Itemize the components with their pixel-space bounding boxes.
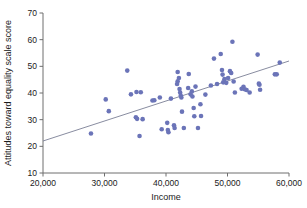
- data-point: [169, 96, 174, 101]
- data-point: [186, 86, 191, 91]
- data-point: [242, 87, 247, 92]
- data-point: [135, 117, 140, 122]
- data-point: [89, 131, 94, 136]
- data-point: [134, 90, 139, 95]
- data-point: [277, 60, 282, 65]
- x-tick-label: 40,000: [153, 178, 179, 188]
- data-point: [165, 121, 170, 126]
- data-point: [209, 83, 214, 88]
- x-tick-label: 30,000: [92, 178, 118, 188]
- data-point: [182, 126, 187, 131]
- x-axis: 20,00030,00040,00050,00060,000: [30, 173, 302, 188]
- data-point: [129, 92, 134, 97]
- data-point: [172, 126, 177, 131]
- data-point: [220, 72, 225, 77]
- data-point: [158, 95, 163, 100]
- data-point: [196, 126, 201, 131]
- data-point: [125, 68, 130, 73]
- y-axis-title: Attitudes toward equality scale score: [3, 20, 13, 166]
- data-point: [152, 98, 157, 103]
- data-point: [166, 130, 171, 135]
- y-tick-label: 50: [28, 61, 38, 71]
- data-point: [199, 114, 204, 119]
- data-point: [137, 134, 142, 139]
- y-tick-label: 10: [28, 168, 38, 178]
- data-point: [198, 102, 203, 107]
- data-point: [180, 109, 185, 114]
- y-tick-label: 70: [28, 8, 38, 18]
- data-point: [274, 72, 279, 77]
- data-point: [175, 82, 180, 87]
- data-point: [218, 52, 223, 57]
- data-point: [212, 56, 217, 61]
- data-point: [138, 90, 143, 95]
- x-axis-title: Income: [151, 192, 181, 202]
- x-tick-label: 20,000: [30, 178, 56, 188]
- data-point: [229, 71, 234, 76]
- data-point: [233, 90, 238, 95]
- data-point: [230, 40, 235, 45]
- data-point: [255, 52, 260, 57]
- data-point: [247, 90, 252, 95]
- data-point: [175, 70, 180, 75]
- y-tick-label: 60: [28, 35, 38, 45]
- data-point: [231, 79, 236, 84]
- data-point: [177, 76, 182, 81]
- data-point: [193, 84, 198, 89]
- data-point: [258, 88, 263, 93]
- y-tick-label: 30: [28, 115, 38, 125]
- data-point: [186, 72, 191, 77]
- data-point: [179, 95, 184, 100]
- data-point: [159, 127, 164, 132]
- data-point: [220, 68, 225, 73]
- y-axis: 10203040506070: [28, 8, 43, 178]
- data-point: [203, 92, 208, 97]
- data-point: [215, 82, 220, 87]
- data-point: [257, 82, 262, 87]
- data-point: [107, 109, 112, 114]
- data-point-series: [89, 40, 282, 139]
- data-point: [226, 76, 231, 81]
- data-point: [140, 117, 145, 122]
- data-point: [192, 114, 197, 119]
- data-point: [224, 81, 229, 86]
- x-tick-label: 60,000: [276, 178, 302, 188]
- data-point: [103, 97, 108, 102]
- x-tick-label: 50,000: [215, 178, 241, 188]
- y-tick-label: 40: [28, 88, 38, 98]
- scatter-plot-figure: 10203040506070 20,00030,00040,00050,0006…: [0, 0, 307, 208]
- y-tick-label: 20: [28, 141, 38, 151]
- data-point: [188, 92, 193, 97]
- data-point: [191, 106, 196, 111]
- plot-canvas: 10203040506070 20,00030,00040,00050,0006…: [0, 0, 307, 208]
